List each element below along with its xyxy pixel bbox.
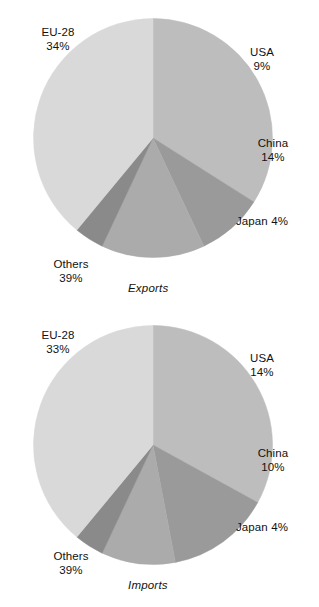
pie-label-eu28-exports: EU-28 34%	[27, 26, 89, 53]
pie-label-eu28-imports-value: 33%	[27, 343, 89, 357]
chart-caption-imports: Imports	[128, 579, 168, 591]
pie-label-china-exports: China 14%	[245, 137, 301, 164]
pie-label-usa-imports: USA 14%	[236, 352, 288, 379]
pie-label-japan-imports-name: Japan	[236, 521, 271, 533]
pie-label-japan-imports-value: 4%	[271, 521, 288, 533]
pie-label-china-exports-name: China	[245, 137, 301, 151]
pie-label-eu28-exports-value: 34%	[27, 40, 89, 54]
pie-label-eu28-imports-name: EU-28	[27, 329, 89, 343]
pie-label-usa-imports-value: 14%	[236, 366, 288, 380]
pie-label-china-imports-name: China	[245, 447, 301, 461]
pie-label-others-imports-name: Others	[40, 550, 102, 564]
pie-label-usa-exports-value: 9%	[236, 60, 288, 74]
pie-label-eu28-imports: EU-28 33%	[27, 329, 89, 356]
pie-label-china-imports-value: 10%	[245, 461, 301, 475]
pie-label-china-exports-value: 14%	[245, 151, 301, 165]
pie-label-japan-imports: Japan 4%	[236, 521, 318, 535]
pie-label-usa-exports: USA 9%	[236, 46, 288, 73]
pie-label-others-exports-value: 39%	[40, 272, 102, 286]
pie-label-others-imports: Others 39%	[40, 550, 102, 577]
pie-label-china-imports: China 10%	[245, 447, 301, 474]
pie-label-others-exports: Others 39%	[40, 258, 102, 285]
pie-label-japan-exports-value: 4%	[271, 215, 288, 227]
pie-label-japan-exports-name: Japan	[236, 215, 271, 227]
pie-label-others-imports-value: 39%	[40, 564, 102, 578]
pie-label-usa-exports-name: USA	[236, 46, 288, 60]
pie-label-usa-imports-name: USA	[236, 352, 288, 366]
pie-chart-exports: EU-28 34% USA 9% China 14% Japan 4% Othe…	[0, 0, 319, 303]
chart-caption-exports: Exports	[128, 282, 168, 294]
pie-label-japan-exports: Japan 4%	[236, 215, 318, 229]
pie-label-eu28-exports-name: EU-28	[27, 26, 89, 40]
pie-label-others-exports-name: Others	[40, 258, 102, 272]
